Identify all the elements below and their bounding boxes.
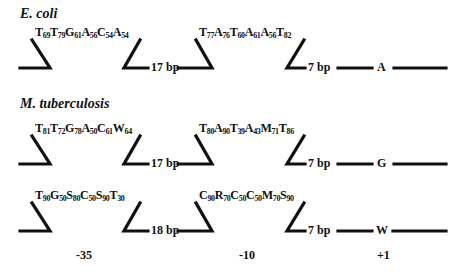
position-label-minus35: -35 <box>76 248 92 263</box>
row-2-spacer-label: 17 bp <box>151 156 179 171</box>
row-2-minus10-sequence: T80A90T39A43M71T86 <box>199 121 294 136</box>
row-3-minus35-sequence: T90G50S80C50S90T30 <box>35 188 124 203</box>
row-1-start-nucleotide: A <box>377 60 386 75</box>
row-1-spacer-label: 17 bp <box>151 60 179 75</box>
row-2-gap-label: 7 bp <box>308 156 330 171</box>
promoter-diagram-lines <box>0 0 458 274</box>
position-label-minus10: -10 <box>239 248 255 263</box>
row-3-start-nucleotide: W <box>376 223 388 238</box>
position-label-plus1: +1 <box>377 248 390 263</box>
row-1-minus10-sequence: T77A76T60A61A56T82 <box>199 25 291 40</box>
row-3-spacer-label: 18 bp <box>151 223 179 238</box>
row-1-gap-label: 7 bp <box>308 60 330 75</box>
row-3-minus10-sequence: C90R70C50C50M70S90 <box>199 188 294 203</box>
row-2-start-nucleotide: G <box>377 156 386 171</box>
row-1-minus35-sequence: T69T79G61A56C54A54 <box>35 25 128 40</box>
row-2-minus35-sequence: T81T72G78A50C61W64 <box>35 121 132 136</box>
row-3-gap-label: 7 bp <box>308 223 330 238</box>
